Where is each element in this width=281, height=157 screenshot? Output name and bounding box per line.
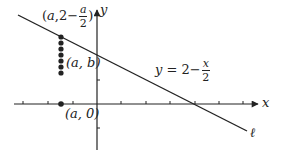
y-axis-label: y: [100, 3, 107, 16]
frac-den: 2: [80, 18, 87, 29]
line-equation-label: y = 2−x2: [155, 58, 211, 83]
paren-close: ): [88, 8, 93, 23]
eq-sign: =: [167, 62, 178, 77]
frac-num: a: [80, 4, 87, 15]
vertical-dots: [58, 34, 63, 75]
eq-const: 2: [182, 62, 190, 77]
frac-den: 2: [202, 72, 209, 83]
frac-num: x: [203, 58, 209, 69]
fraction-x-over-2: x2: [202, 58, 210, 83]
top-point-label: (a,2−a2): [42, 4, 93, 29]
var-a: a: [47, 8, 55, 23]
eq-lhs: y: [155, 62, 162, 77]
line-name-label: ℓ: [250, 126, 255, 139]
bottom-point-label: (a, 0): [65, 107, 99, 120]
point-a-0: [58, 101, 64, 107]
fraction-a-over-2: a2: [79, 4, 87, 29]
x-axis-label: x: [262, 96, 269, 109]
middle-point-label: (a, b): [66, 56, 100, 69]
eq-minus: −: [190, 62, 201, 77]
line-l: [18, 15, 247, 131]
minus-sign: −: [67, 8, 78, 23]
